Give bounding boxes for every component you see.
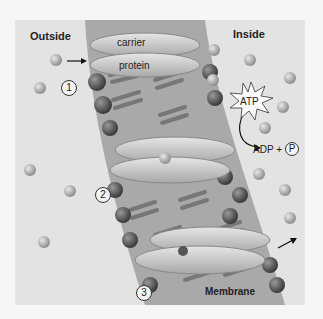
- outside-label: Outside: [30, 30, 71, 42]
- membrane-illustration: [15, 20, 305, 305]
- inside-label: Inside: [233, 28, 265, 40]
- diagram-panel: Outside Inside carrier protein Membrane …: [15, 20, 305, 305]
- atp-label: ATP: [240, 96, 259, 107]
- step-2-marker: 2: [95, 187, 111, 203]
- membrane-label: Membrane: [205, 286, 255, 297]
- adp-label: ADP +: [253, 144, 282, 155]
- step-3-marker: 3: [136, 285, 152, 301]
- carrier-label: carrier: [117, 37, 145, 48]
- phosphate-icon: P: [285, 142, 299, 156]
- protein-label: protein: [119, 60, 150, 71]
- step-1-marker: 1: [61, 80, 77, 96]
